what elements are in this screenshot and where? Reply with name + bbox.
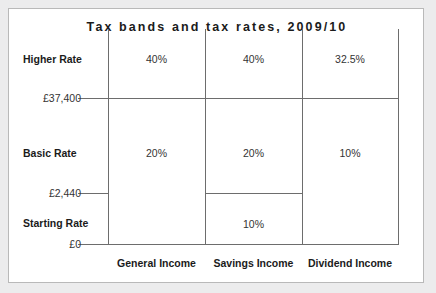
- rate-basic-general: 20%: [108, 147, 205, 159]
- axis-label-37400: £37,400: [9, 92, 81, 104]
- rate-starting-savings: 10%: [205, 218, 302, 230]
- column-header-dividend-income: Dividend Income: [300, 257, 400, 269]
- column-divider-right: [398, 29, 399, 244]
- column-header-savings-income: Savings Income: [205, 257, 302, 269]
- rate-basic-savings: 20%: [205, 147, 302, 159]
- band-label-starting-rate: Starting Rate: [23, 217, 88, 229]
- band-label-basic-rate: Basic Rate: [23, 147, 77, 159]
- chart-title: Tax bands and tax rates, 2009/10: [9, 20, 425, 34]
- threshold-line-2440-savings: [205, 193, 303, 194]
- threshold-line-37400: [78, 98, 399, 99]
- band-label-higher-rate: Higher Rate: [23, 53, 82, 65]
- axis-label-zero: £0: [9, 238, 81, 250]
- axis-label-2440: £2,440: [9, 187, 81, 199]
- rate-higher-savings: 40%: [205, 53, 302, 65]
- rate-higher-dividend: 32.5%: [302, 53, 398, 65]
- rate-basic-dividend: 10%: [302, 147, 398, 159]
- rate-higher-general: 40%: [108, 53, 205, 65]
- threshold-tick-2440: [78, 193, 109, 194]
- baseline-zero: [78, 244, 399, 245]
- chart-panel: Tax bands and tax rates, 2009/10 Higher …: [8, 8, 424, 283]
- column-header-general-income: General Income: [108, 257, 205, 269]
